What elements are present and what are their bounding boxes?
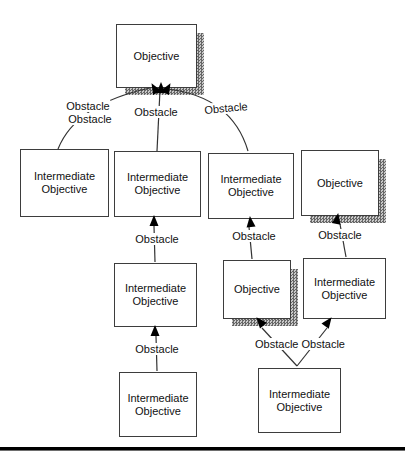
io-bottom-right-box: Intermediate Objective <box>258 368 341 433</box>
obstacle-top-middle-label: Obstacle <box>133 106 178 118</box>
top-objective-label: Objective <box>134 50 180 63</box>
io-right-upper-label: Intermediate Objective <box>214 173 288 199</box>
obstacle-top-left-2-label: Obstacle <box>67 113 112 125</box>
io-mid-upper-label: Intermediate Objective <box>120 171 195 197</box>
io-right-upper-box: Intermediate Objective <box>208 153 294 219</box>
io-mid-bottom-box: Intermediate Objective <box>119 372 197 437</box>
obstacle-mid-right-2-label: Obstacle <box>317 229 362 241</box>
io-right-middle-box: Intermediate Objective <box>303 258 386 319</box>
io-mid-bottom-label: Intermediate Objective <box>125 392 191 418</box>
io-mid-middle-label: Intermediate Objective <box>120 282 191 308</box>
c-right-curve <box>168 89 248 151</box>
objective-mid-right-label: Objective <box>234 283 280 296</box>
io-right-middle-label: Intermediate Objective <box>309 276 380 302</box>
io-bottom-right-label: Intermediate Objective <box>264 388 335 414</box>
obstacle-mid-center-label: Obstacle <box>134 233 179 245</box>
bottom-rule <box>0 447 405 451</box>
io-mid-upper-box: Intermediate Objective <box>114 151 201 217</box>
io-mid-middle-box: Intermediate Objective <box>114 263 197 327</box>
obstacle-top-left-1-label: Obstacle <box>65 100 110 112</box>
objective-far-right-label: Objective <box>317 177 363 190</box>
obstacle-bottom-pair-label: Obstacle Obstacle <box>254 338 346 350</box>
obstacle-mid-right-1-label: Obstacle <box>231 230 276 242</box>
objective-mid-right-box: Objective <box>223 260 291 319</box>
io-left-box: Intermediate Objective <box>20 149 109 217</box>
diagram-stage: ObjectiveIntermediate ObjectiveIntermedi… <box>0 0 405 461</box>
obstacle-top-right-label: Obstacle <box>203 100 249 116</box>
top-objective-box: Objective <box>116 24 197 88</box>
io-left-label: Intermediate Objective <box>26 170 103 196</box>
c-middle-line <box>157 90 160 151</box>
obstacle-low-center-label: Obstacle <box>134 343 179 355</box>
objective-far-right-box: Objective <box>301 150 379 216</box>
